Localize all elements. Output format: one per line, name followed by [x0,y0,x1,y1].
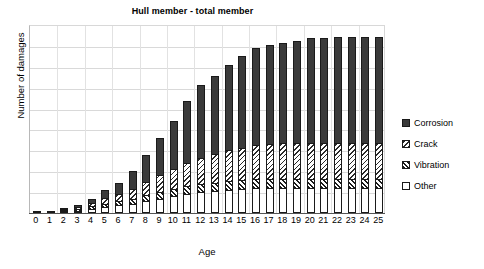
x-tick-0: 0 [33,215,38,225]
bar-segment-corrosion [320,38,328,143]
bar-segment-other [361,188,369,213]
bar-segment-corrosion [266,45,274,144]
bar-age-7[interactable] [129,171,137,213]
bar-age-9[interactable] [156,138,164,213]
bar-segment-corrosion [183,101,191,163]
bar-segment-other [238,189,246,213]
chart-legend: CorrosionCrackVibrationOther [402,112,482,196]
bar-age-15[interactable] [238,56,246,213]
x-tick-10: 10 [168,215,178,225]
x-tick-24: 24 [359,215,369,225]
bar-segment-corrosion [101,190,109,198]
bar-segment-other [225,190,233,213]
bar-segment-vibration [375,179,383,187]
x-axis-label: Age [29,246,385,257]
bar-segment-corrosion [348,37,356,143]
bar-age-22[interactable] [334,37,342,213]
chart-container: Hull member - total member Number of dam… [0,0,484,269]
bar-series-group [30,26,384,213]
bar-age-6[interactable] [115,183,123,213]
legend-swatch-corrosion-icon [402,119,410,127]
bar-segment-crack [252,145,260,179]
bar-segment-other [375,188,383,213]
bar-age-12[interactable] [197,85,205,213]
x-tick-5: 5 [102,215,107,225]
bar-segment-crack [307,143,315,180]
bar-segment-vibration [170,189,178,197]
legend-label: Other [414,181,437,191]
legend-item-crack[interactable]: Crack [402,133,482,154]
x-tick-13: 13 [209,215,219,225]
bar-segment-corrosion [361,37,369,143]
bar-age-16[interactable] [252,48,260,213]
bar-age-5[interactable] [101,190,109,213]
legend-swatch-crack-icon [402,140,410,148]
bar-age-3[interactable] [74,205,82,213]
bar-age-4[interactable] [88,199,96,213]
bar-segment-other [252,188,260,213]
bar-age-18[interactable] [279,43,287,213]
legend-label: Crack [414,139,438,149]
bar-age-8[interactable] [142,155,150,213]
bar-age-24[interactable] [361,37,369,213]
x-tick-6: 6 [115,215,120,225]
bar-segment-vibration [334,179,342,187]
x-tick-11: 11 [182,215,191,225]
legend-label: Vibration [414,160,449,170]
bar-segment-corrosion [60,208,68,209]
bar-segment-corrosion [197,85,205,157]
bar-segment-corrosion [129,171,137,189]
bar-age-20[interactable] [307,38,315,213]
bar-segment-crack [170,169,178,189]
bar-segment-vibration [60,210,68,211]
bar-segment-corrosion [142,155,150,182]
bar-age-10[interactable] [170,121,178,213]
bar-segment-crack [101,198,109,204]
bar-segment-other [279,188,287,213]
bar-age-19[interactable] [293,41,301,213]
bar-age-14[interactable] [225,65,233,213]
bar-segment-other [183,194,191,213]
bar-segment-crack [375,143,383,180]
bar-segment-crack [74,207,82,209]
bar-age-23[interactable] [348,37,356,213]
bar-segment-vibration [101,204,109,207]
bar-segment-corrosion [334,37,342,143]
bar-segment-crack [211,154,219,183]
x-tick-23: 23 [346,215,356,225]
legend-item-corrosion[interactable]: Corrosion [402,112,482,133]
bar-segment-other [115,205,123,213]
bar-segment-corrosion [211,76,219,154]
bar-age-17[interactable] [266,45,274,213]
bar-segment-crack [129,189,137,199]
bar-age-11[interactable] [183,101,191,213]
x-tick-22: 22 [332,215,342,225]
bar-segment-other [142,201,150,213]
bar-segment-corrosion [115,183,123,194]
bar-segment-vibration [238,180,246,188]
legend-item-other[interactable]: Other [402,175,482,196]
bar-segment-corrosion [307,38,315,142]
bar-age-25[interactable] [375,37,383,213]
bar-segment-other [170,196,178,213]
legend-swatch-vibration-icon [402,161,410,169]
bar-segment-crack [279,143,287,179]
x-tick-9: 9 [157,215,162,225]
bar-segment-other [348,188,356,213]
bar-segment-crack [361,143,369,180]
bar-segment-corrosion [279,43,287,144]
bar-segment-vibration [74,209,82,211]
bar-segment-vibration [348,179,356,187]
bar-age-13[interactable] [211,76,219,213]
bar-segment-corrosion [252,48,260,145]
x-tick-8: 8 [143,215,148,225]
bar-age-21[interactable] [320,38,328,213]
legend-item-vibration[interactable]: Vibration [402,154,482,175]
bar-segment-corrosion [74,205,82,207]
x-tick-19: 19 [291,215,301,225]
bar-segment-vibration [197,184,205,192]
legend-label: Corrosion [414,118,453,128]
bar-segment-crack [156,175,164,192]
x-tick-2: 2 [61,215,66,225]
x-tick-18: 18 [277,215,287,225]
